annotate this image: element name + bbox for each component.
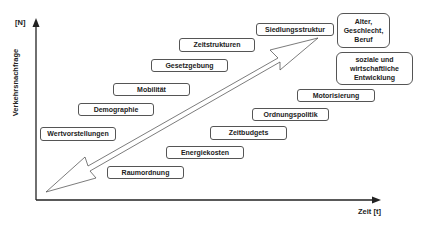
y-axis-label: Verkehrsnachfrage (11, 49, 20, 117)
y-axis-arrowhead-icon (33, 18, 40, 27)
box-alter-geschlecht-beruf: Alter, Geschlecht, Beruf (337, 13, 390, 48)
y-axis-unit: [N] (15, 18, 25, 27)
box-wertvorstellungen: Wertvorstellungen (40, 127, 116, 141)
x-axis-label: Zeit [t] (358, 207, 381, 216)
box-ordnungspolitik: Ordnungspolitik (252, 108, 329, 121)
box-mobilitaet: Mobilität (113, 83, 190, 96)
box-demographie: Demographie (78, 103, 154, 116)
box-motorisierung: Motorisierung (297, 89, 375, 102)
box-energiekosten: Energiekosten (166, 146, 244, 159)
box-siedlungsstruktur: Siedlungsstruktur (256, 23, 334, 36)
box-zeitstrukturen: Zeitstrukturen (179, 38, 255, 52)
x-axis-arrowhead-icon (372, 197, 381, 204)
box-raumordnung: Raumordnung (107, 166, 184, 179)
box-soziale-entwicklung: soziale und wirtschaftliche Entwicklung (336, 52, 413, 85)
box-zeitbudgets: Zeitbudgets (210, 126, 287, 140)
box-gesetzgebung: Gesetzgebung (151, 59, 228, 72)
